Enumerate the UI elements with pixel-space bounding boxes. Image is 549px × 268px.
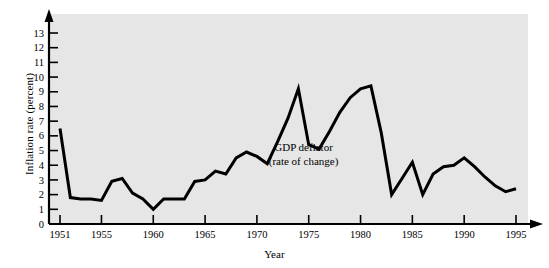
x-tick-label: 1975 [298,229,319,240]
x-tick-label: 1970 [246,229,267,240]
y-tick-label: 4 [39,160,45,171]
x-tick-label: 1955 [91,229,112,240]
y-axis-title: Inflation rate (percent) [23,39,35,209]
x-tick-label: 1985 [402,229,423,240]
y-tick-label: 13 [34,28,45,39]
chart-figure: 012345678910111213 195119551960196519701… [0,0,549,268]
series-annotation-line-1: GDP deflator [242,141,366,155]
series-annotation: GDP deflator (rate of change) [242,141,366,169]
y-tick-label: 8 [39,101,44,112]
x-tick-label: 1990 [454,229,475,240]
x-tick-label: 1951 [50,229,71,240]
y-tick-label: 3 [39,175,44,186]
x-tick-label: 1960 [143,229,164,240]
y-tick-label: 6 [39,130,44,141]
x-axis-arrowhead [530,220,543,229]
chart-canvas: 012345678910111213 195119551960196519701… [0,0,549,268]
series-annotation-line-2: (rate of change) [242,155,366,169]
x-tick-label: 1980 [350,229,371,240]
x-tick-label: 1995 [506,229,527,240]
x-tick-label: 1965 [195,229,216,240]
y-tick-label: 2 [39,189,44,200]
y-tick-label: 0 [39,219,44,230]
y-tick-label: 5 [39,145,44,156]
y-tick-label: 10 [34,72,45,83]
y-tick-label: 1 [39,204,44,215]
y-tick-label: 11 [34,57,44,68]
x-axis-title: Year [0,248,549,260]
y-tick-label: 7 [39,116,44,127]
y-tick-label: 12 [34,42,45,53]
y-tick-label: 9 [39,86,44,97]
